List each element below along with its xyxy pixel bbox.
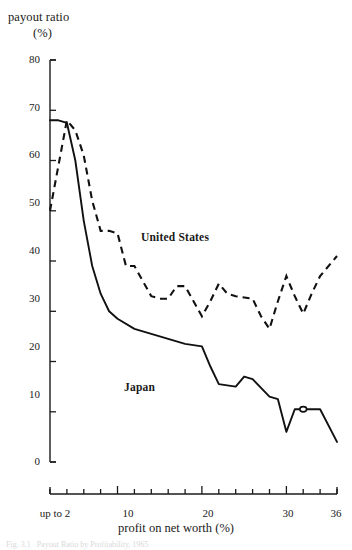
x-axis-spine (50, 487, 337, 494)
x-tick-label-20: 20 (203, 507, 214, 519)
y-tick-label-30: 30 (14, 292, 40, 304)
y-tick-label-40: 40 (14, 244, 40, 256)
y-tick-label-10: 10 (14, 388, 40, 400)
figure-caption: Fig. 3.1 Payout Ratio by Profitability, … (6, 540, 148, 549)
figure-root: payout ratio (%) 80 70 60 50 40 30 20 10… (0, 0, 352, 550)
series-line-japan (50, 120, 337, 442)
x-tick-label-30: 30 (283, 507, 294, 519)
japan-data-point-marker (300, 407, 307, 412)
y-tick-label-0: 0 (14, 455, 40, 467)
chart-plot-area (0, 0, 352, 550)
y-tick-label-80: 80 (14, 53, 40, 65)
x-axis-title: profit on net worth (%) (0, 521, 352, 536)
x-tick-label-10: 10 (123, 507, 134, 519)
y-axis-title-line1: payout ratio (8, 10, 69, 25)
y-tick-label-50: 50 (14, 196, 40, 208)
series-label-japan: Japan (124, 381, 155, 393)
y-tick-label-70: 70 (14, 101, 40, 113)
y-tick-label-60: 60 (14, 148, 40, 160)
x-tick-label-up-to-2: up to 2 (40, 507, 71, 519)
y-tick-label-20: 20 (14, 340, 40, 352)
x-tick-label-36: 36 (331, 507, 342, 519)
series-line-united-states (50, 120, 337, 329)
x-axis-ticks (50, 486, 337, 494)
y-axis-title-line2: (%) (33, 26, 52, 41)
series-label-united-states: United States (141, 231, 209, 243)
